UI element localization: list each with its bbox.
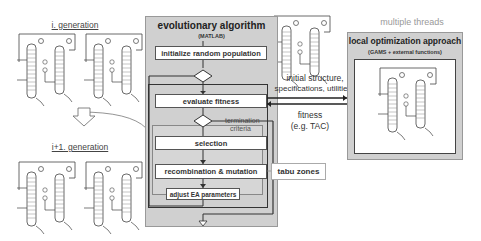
local-flowsheet: [0, 0, 481, 241]
tabu-zones-box: tabu zones: [271, 163, 326, 180]
